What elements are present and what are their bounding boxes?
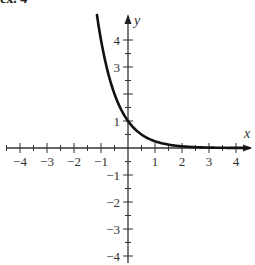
axes — [6, 14, 252, 263]
y-tick-label: −3 — [106, 222, 120, 237]
exponential-graph: xy−4−3−2−11234−4−3−2−1134 — [0, 0, 255, 265]
x-tick-label: 2 — [179, 154, 186, 169]
x-tick-label: −2 — [67, 154, 81, 169]
y-tick-label: −1 — [106, 168, 120, 183]
y-axis-arrow-icon — [125, 14, 132, 24]
x-tick-label: 1 — [152, 154, 159, 169]
y-tick-label: −2 — [106, 195, 120, 210]
y-tick-label: 1 — [114, 114, 121, 129]
y-tick-label: 4 — [114, 33, 121, 48]
y-tick-label: −4 — [106, 249, 120, 264]
y-tick-label: 3 — [114, 60, 121, 75]
tick-labels: xy−4−3−2−11234−4−3−2−1134 — [13, 13, 251, 264]
y-axis-label: y — [132, 13, 141, 28]
x-tick-label: 3 — [206, 154, 213, 169]
x-axis-label: x — [243, 126, 251, 141]
x-tick-label: 4 — [233, 154, 240, 169]
x-tick-label: −3 — [40, 154, 54, 169]
x-tick-label: −4 — [13, 154, 27, 169]
